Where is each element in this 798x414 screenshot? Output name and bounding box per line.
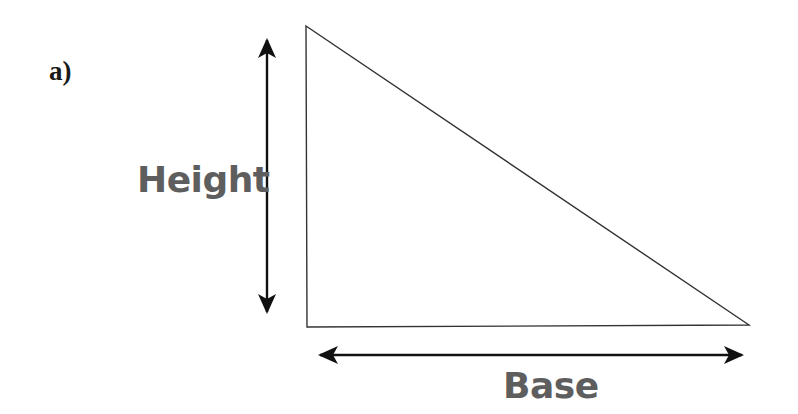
diagram-canvas: a) Height Base bbox=[0, 0, 798, 414]
height-label: Height bbox=[137, 162, 270, 198]
right-triangle bbox=[306, 26, 749, 327]
triangle-diagram bbox=[0, 0, 798, 414]
base-label: Base bbox=[503, 368, 599, 404]
part-label: a) bbox=[49, 58, 72, 85]
